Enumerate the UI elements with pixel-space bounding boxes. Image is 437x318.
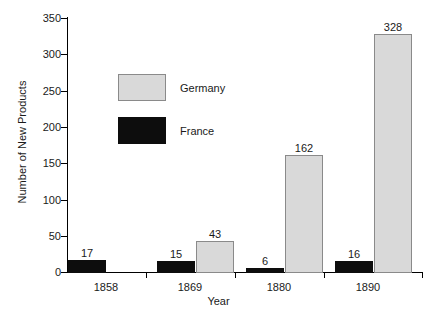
x-axis-title: Year: [0, 295, 437, 307]
y-tick-label-100: 100: [27, 195, 61, 205]
bar-germany-1890[interactable]: [374, 34, 412, 273]
y-tick-mark-150: [61, 163, 68, 164]
y-tick-mark-0: [61, 272, 68, 273]
y-tick-mark-250: [61, 91, 68, 92]
y-tick-mark-200: [61, 127, 68, 128]
x-tick-mark-2: [235, 272, 236, 278]
y-tick-group-0: 0: [0, 267, 61, 277]
y-tick-label-0: 0: [27, 267, 61, 277]
y-tick-group-50: 50: [0, 231, 61, 241]
y-tick-label-250: 250: [27, 86, 61, 96]
y-tick-label-300: 300: [27, 49, 61, 59]
x-tick-label-1858: 1858: [76, 281, 136, 293]
legend-label-germany: Germany: [180, 82, 225, 94]
bar-chart: Number of New Products Year 0 50 100 150…: [0, 0, 437, 318]
bar-germany-1880[interactable]: [285, 155, 323, 273]
y-tick-group-250: 250: [0, 86, 61, 96]
x-tick-mark-4: [422, 272, 423, 278]
legend-label-france: France: [180, 125, 214, 137]
bar-value-france-1858: 17: [57, 247, 117, 259]
y-tick-group-200: 200: [0, 122, 61, 132]
x-tick-label-1890: 1890: [338, 281, 398, 293]
y-tick-group-100: 100: [0, 195, 61, 205]
y-tick-label-200: 200: [27, 122, 61, 132]
y-tick-mark-100: [61, 200, 68, 201]
y-tick-mark-350: [61, 18, 68, 19]
bar-value-germany-1880: 162: [274, 142, 334, 154]
x-tick-mark-3: [324, 272, 325, 278]
y-axis-line: [67, 17, 68, 273]
bar-value-germany-1869: 43: [185, 228, 245, 240]
x-tick-label-1880: 1880: [249, 281, 309, 293]
legend-swatch-germany: [118, 74, 166, 101]
y-tick-mark-300: [61, 54, 68, 55]
y-tick-label-350: 350: [27, 13, 61, 23]
bar-france-1858[interactable]: [68, 260, 106, 273]
y-tick-group-150: 150: [0, 158, 61, 168]
y-tick-label-50: 50: [27, 231, 61, 241]
x-tick-label-1869: 1869: [160, 281, 220, 293]
bar-france-1880[interactable]: [246, 268, 284, 273]
y-tick-label-150: 150: [27, 158, 61, 168]
y-tick-mark-50: [61, 236, 68, 237]
bar-france-1869[interactable]: [157, 261, 195, 273]
bar-france-1890[interactable]: [335, 261, 373, 273]
bar-germany-1869[interactable]: [196, 241, 234, 273]
y-tick-group-300: 300: [0, 49, 61, 59]
legend-swatch-france: [118, 117, 166, 144]
y-tick-group-350: 350: [0, 13, 61, 23]
x-tick-mark-1: [146, 272, 147, 278]
bar-value-germany-1890: 328: [363, 21, 423, 33]
